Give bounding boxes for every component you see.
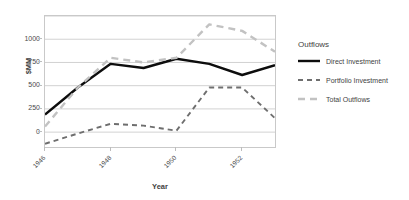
chart-legend: Outflows Direct InvestmentPortfolio Inve… xyxy=(298,40,408,113)
legend-item[interactable]: Direct Investment xyxy=(298,56,408,66)
x-axis-tick-mark xyxy=(241,147,242,151)
legend-swatch-total-outflows-icon xyxy=(298,94,320,104)
legend-title: Outflows xyxy=(298,40,408,49)
legend-item-label: Total Outflows xyxy=(326,95,370,104)
legend-swatch-direct-investment-icon xyxy=(298,56,320,66)
x-axis-tick-mark xyxy=(175,147,176,151)
x-axis-tick-label: 1948 xyxy=(90,154,112,176)
legend-item-label: Direct Investment xyxy=(326,57,380,66)
legend-item-label: Portfolio Investment xyxy=(326,76,388,85)
chart-figure: $MM 02505007501000 1946194819501952 Year… xyxy=(0,0,409,200)
x-axis-tick-label: 1946 xyxy=(25,154,47,176)
x-axis-tick-label: 1952 xyxy=(222,154,244,176)
legend-item[interactable]: Total Outflows xyxy=(298,94,408,104)
x-axis-tick-mark xyxy=(44,147,45,151)
x-axis-tick-mark xyxy=(110,147,111,151)
legend-swatch-portfolio-investment-icon xyxy=(298,75,320,85)
legend-items: Direct InvestmentPortfolio InvestmentTot… xyxy=(298,56,408,104)
legend-item[interactable]: Portfolio Investment xyxy=(298,75,408,85)
x-axis-tick-label: 1950 xyxy=(156,154,178,176)
x-axis-title: Year xyxy=(44,182,276,191)
